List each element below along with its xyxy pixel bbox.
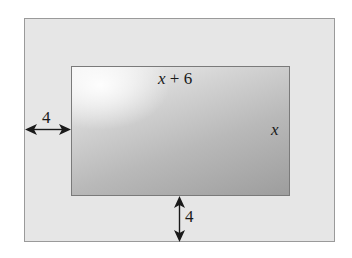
diagram-figure: x + 6 x 4 4 bbox=[0, 0, 352, 258]
inner-width-label: x + 6 bbox=[158, 70, 192, 87]
inner-height-label: x bbox=[271, 121, 279, 138]
width-offset: + 6 bbox=[166, 69, 193, 88]
left-border-width-label: 4 bbox=[42, 109, 51, 126]
bottom-border-width-label: 4 bbox=[185, 208, 194, 225]
width-variable: x bbox=[158, 69, 166, 88]
